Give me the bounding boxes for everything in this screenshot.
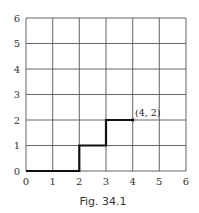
svg-text:5: 5	[14, 38, 20, 49]
y-axis-ticks: 0 1 2 3 4 5 6	[14, 13, 20, 177]
svg-text:6: 6	[14, 13, 20, 24]
svg-text:4: 4	[14, 64, 20, 75]
svg-text:1: 1	[14, 140, 20, 151]
svg-text:2: 2	[14, 115, 20, 126]
grid-figure: (4, 2) 0 1 2 3 4 5 6 0 1 2 3 4 5 6 Fig. …	[0, 0, 199, 213]
svg-text:2: 2	[76, 176, 82, 187]
figure-caption: Fig. 34.1	[79, 195, 126, 208]
point-label: (4, 2)	[135, 107, 161, 118]
svg-text:3: 3	[14, 89, 20, 100]
svg-text:0: 0	[14, 166, 20, 177]
x-axis-ticks: 0 1 2 3 4 5 6	[23, 176, 189, 187]
grid-lines	[26, 18, 186, 171]
endpoint-marker	[131, 118, 135, 122]
svg-text:3: 3	[103, 176, 109, 187]
svg-text:1: 1	[50, 176, 56, 187]
svg-text:5: 5	[156, 176, 162, 187]
svg-text:4: 4	[130, 176, 136, 187]
svg-text:0: 0	[23, 176, 29, 187]
svg-text:6: 6	[183, 176, 189, 187]
